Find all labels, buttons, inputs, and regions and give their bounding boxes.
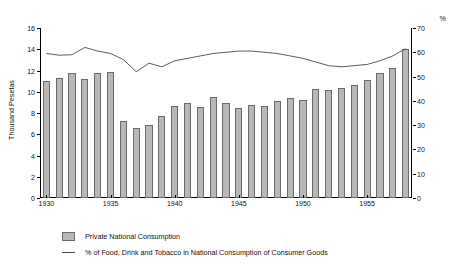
x-tick bbox=[239, 195, 240, 198]
x-tick bbox=[303, 195, 304, 198]
y2-tick-label: 60 bbox=[417, 49, 425, 56]
y-tick bbox=[37, 49, 40, 50]
x-tick-label: 1950 bbox=[295, 200, 311, 207]
y-tick-label: 4 bbox=[31, 152, 35, 159]
y2-tick bbox=[413, 174, 416, 175]
y2-tick bbox=[413, 149, 416, 150]
y-tick-label: 0 bbox=[31, 195, 35, 202]
plot-area: 0246810121416 010203040506070 1930193519… bbox=[40, 28, 412, 198]
x-tick bbox=[111, 195, 112, 198]
x-tick bbox=[367, 195, 368, 198]
y2-tick bbox=[413, 125, 416, 126]
y-tick bbox=[37, 28, 40, 29]
y-tick bbox=[37, 177, 40, 178]
x-tick bbox=[46, 195, 47, 198]
x-tick-label: 1935 bbox=[103, 200, 119, 207]
y2-tick-label: 20 bbox=[417, 146, 425, 153]
y2-tick-label: 50 bbox=[417, 73, 425, 80]
legend-item-bars: Private National Consumption bbox=[62, 228, 392, 244]
chart-root: Thousand Pesetas % 0246810121416 0102030… bbox=[0, 0, 452, 273]
y-tick-label: 12 bbox=[27, 67, 35, 74]
y-tick-label: 16 bbox=[27, 25, 35, 32]
y-tick-label: 2 bbox=[31, 173, 35, 180]
y-tick bbox=[37, 92, 40, 93]
y2-tick-label: 30 bbox=[417, 122, 425, 129]
legend-label-line: % of Food, Drink and Tobacco in National… bbox=[85, 248, 328, 257]
y-tick bbox=[37, 113, 40, 114]
y-tick bbox=[37, 198, 40, 199]
legend-swatch-icon bbox=[62, 232, 75, 241]
y2-tick-label: 40 bbox=[417, 97, 425, 104]
line-series bbox=[40, 28, 412, 198]
y-tick bbox=[37, 71, 40, 72]
line-path bbox=[46, 47, 405, 71]
legend-label-bars: Private National Consumption bbox=[85, 232, 180, 241]
x-tick-label: 1945 bbox=[231, 200, 247, 207]
y-tick bbox=[37, 134, 40, 135]
x-tick-label: 1955 bbox=[359, 200, 375, 207]
y2-tick-label: 10 bbox=[417, 170, 425, 177]
y2-tick-label: 70 bbox=[417, 25, 425, 32]
y-tick-label: 14 bbox=[27, 46, 35, 53]
y-tick-label: 6 bbox=[31, 131, 35, 138]
y-tick-label: 8 bbox=[31, 110, 35, 117]
chart-legend: Private National Consumption % of Food, … bbox=[62, 228, 392, 260]
y-tick-label: 10 bbox=[27, 88, 35, 95]
y2-tick-label: 0 bbox=[417, 195, 421, 202]
legend-item-line: % of Food, Drink and Tobacco in National… bbox=[62, 244, 392, 260]
y2-tick bbox=[413, 28, 416, 29]
y2-tick bbox=[413, 52, 416, 53]
x-tick bbox=[175, 195, 176, 198]
y2-tick bbox=[413, 101, 416, 102]
y-tick bbox=[37, 156, 40, 157]
x-tick-label: 1940 bbox=[167, 200, 183, 207]
y2-tick bbox=[413, 77, 416, 78]
y2-tick bbox=[413, 198, 416, 199]
x-tick-label: 1930 bbox=[39, 200, 55, 207]
legend-line-icon bbox=[62, 252, 75, 253]
y2-axis-title: % bbox=[440, 14, 446, 23]
